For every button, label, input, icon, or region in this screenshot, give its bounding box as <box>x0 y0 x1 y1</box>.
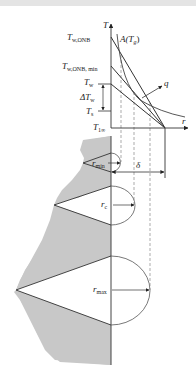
cavity-diagram: T r Tw,ONB Tw,ONB, min Tw ΔTw Ts T1∞ A(T… <box>0 0 196 375</box>
wall-bottom <box>16 290 111 365</box>
label-tw-onb: Tw,ONB <box>67 32 90 43</box>
label-tw: Tw <box>84 77 94 88</box>
q-arrow <box>142 86 162 98</box>
bubble-c <box>111 186 135 225</box>
label-t-inf: T1∞ <box>93 122 105 133</box>
profile-onb-min <box>111 66 165 128</box>
label-a-tg: A(Tg) <box>119 34 140 45</box>
label-tw-onb-min: Tw,ONB, min <box>62 61 97 72</box>
label-rc: rc <box>101 199 108 210</box>
profile-w <box>111 84 165 128</box>
t-axis-label: T <box>103 20 109 30</box>
r-axis-label: r <box>182 116 186 126</box>
bubble-max <box>111 256 150 325</box>
label-delta: δ <box>136 160 141 170</box>
label-ts: Ts <box>86 106 94 117</box>
wall-middle-lower <box>16 205 111 290</box>
label-delta-tw: ΔTw <box>79 92 95 103</box>
bubble-min <box>111 153 121 172</box>
label-q: q <box>164 78 169 88</box>
label-rmax: rmax <box>93 284 107 295</box>
